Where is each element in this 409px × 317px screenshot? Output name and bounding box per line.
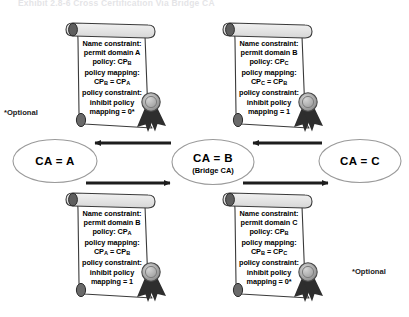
node-ellipse-ca-a[interactable] [13,140,97,183]
node-ellipse-ca-c[interactable] [319,140,401,183]
certificate-scroll-top-left [66,23,166,132]
optional-note-left: *Optional [4,108,38,117]
certificate-scroll-top-right [223,23,323,132]
certificate-scroll-bottom-right [223,193,323,302]
figure-canvas: Exhibit 2.8-6 Cross Certification Via Br… [0,0,409,317]
optional-note-right: *Optional [352,267,386,276]
diagram-svg [0,0,409,317]
node-ellipse-ca-b[interactable] [172,140,254,185]
certificate-scroll-bottom-left [66,193,166,302]
